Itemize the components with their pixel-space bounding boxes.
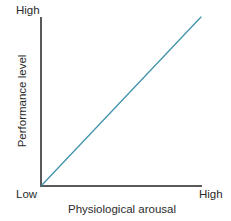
chart-figure: High Low High Performance level Physiolo… — [0, 0, 231, 221]
x-axis-title: Physiological arousal — [41, 204, 203, 216]
data-line-performance — [42, 17, 202, 186]
y-axis-tick-low: Low — [16, 189, 37, 201]
x-axis-tick-high: High — [199, 189, 223, 201]
y-axis-tick-high: High — [16, 5, 40, 17]
y-axis-title: Performance level — [14, 16, 30, 186]
